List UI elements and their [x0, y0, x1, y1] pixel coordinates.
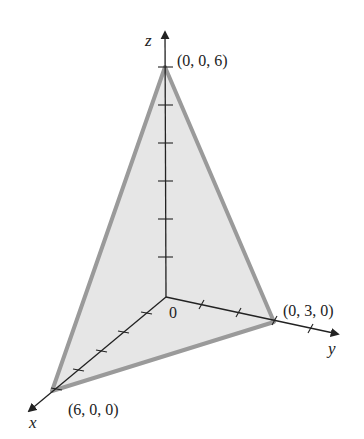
plane-triangle: [52, 67, 274, 391]
z-intercept-label: (0, 0, 6): [177, 52, 228, 70]
z-axis-label: z: [144, 31, 152, 50]
x-intercept-label: (6, 0, 0): [68, 401, 119, 419]
origin-label: 0: [169, 304, 177, 321]
plane-intercept-diagram: z y x 0 (0, 0, 6) (0, 3, 0) (6, 0, 0): [0, 0, 364, 439]
y-intercept-label: (0, 3, 0): [283, 302, 334, 320]
x-axis-label: x: [28, 413, 37, 432]
y-axis-label: y: [326, 339, 336, 358]
